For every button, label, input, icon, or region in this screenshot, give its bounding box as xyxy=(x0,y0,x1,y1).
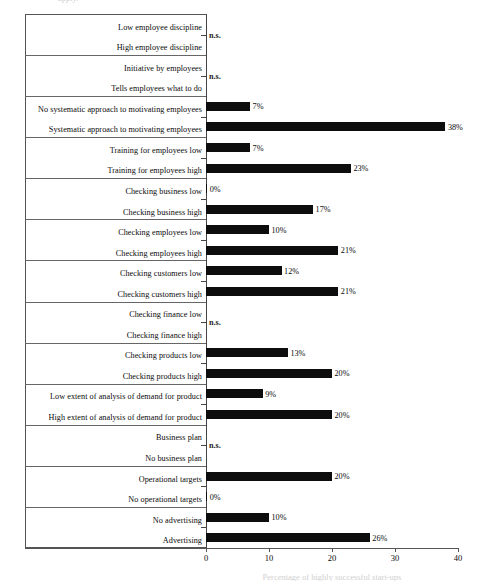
x-axis-tick xyxy=(269,548,270,552)
group-separator xyxy=(25,302,206,303)
bar-value-label: 21% xyxy=(341,287,356,296)
bar xyxy=(206,246,338,255)
bar-value-label: 17% xyxy=(316,205,331,214)
not-significant-label: n.s. xyxy=(209,71,221,80)
x-axis-tick-label: 10 xyxy=(265,553,274,563)
category-label: Checking customers low xyxy=(120,269,202,278)
category-label: High extent of analysis of demand for pr… xyxy=(49,412,202,421)
bar xyxy=(206,513,269,522)
group-separator xyxy=(25,96,206,97)
group-separator xyxy=(25,137,206,138)
bar xyxy=(206,184,207,193)
bar-value-label: 7% xyxy=(253,143,264,152)
x-axis-tick xyxy=(206,548,207,552)
group-separator xyxy=(25,219,206,220)
category-label: Tells employees what to do xyxy=(111,84,202,93)
category-label: No systematic approach to motivating emp… xyxy=(38,104,202,113)
category-label: Training for employees low xyxy=(110,145,202,154)
bar-value-label: 20% xyxy=(335,410,350,419)
cut-off-text-artifact: apply. xyxy=(58,0,78,3)
group-axis-tick xyxy=(201,363,206,364)
group-axis-tick xyxy=(201,240,206,241)
category-label: Systematic approach to motivating employ… xyxy=(49,125,202,134)
category-label: Checking employees high xyxy=(116,248,202,257)
category-label: No operational targets xyxy=(128,495,202,504)
group-separator xyxy=(25,466,206,467)
not-significant-label: n.s. xyxy=(209,318,221,327)
bar xyxy=(206,533,370,542)
not-significant-label: n.s. xyxy=(209,30,221,39)
group-axis-tick xyxy=(201,117,206,118)
bar xyxy=(206,205,313,214)
bar xyxy=(206,122,445,131)
bar-value-label: 20% xyxy=(335,369,350,378)
category-label: No advertising xyxy=(153,515,202,524)
category-label: Business plan xyxy=(156,433,202,442)
category-label: Checking finance low xyxy=(129,310,202,319)
group-axis-tick xyxy=(201,486,206,487)
bar-value-label: 26% xyxy=(372,533,387,542)
group-separator xyxy=(25,507,206,508)
category-label: Checking employees low xyxy=(118,228,202,237)
x-axis-title: Percentage of highly successful start-up… xyxy=(263,572,402,581)
x-axis-tick-label: 20 xyxy=(328,553,337,563)
x-axis-tick-label: 40 xyxy=(454,553,463,563)
category-label: Checking products high xyxy=(123,371,202,380)
group-separator xyxy=(25,425,206,426)
bar xyxy=(206,472,332,481)
group-axis-tick xyxy=(201,76,206,77)
group-axis-tick xyxy=(201,527,206,528)
group-separator xyxy=(25,343,206,344)
bar xyxy=(206,389,263,398)
category-label: Checking business high xyxy=(123,207,202,216)
bar-value-label: 9% xyxy=(265,389,276,398)
category-label: Low employee discipline xyxy=(118,22,202,31)
group-axis-tick xyxy=(201,322,206,323)
category-label: Initiative by employees xyxy=(124,63,202,72)
category-label: No business plan xyxy=(145,454,202,463)
group-separator xyxy=(25,55,206,56)
category-label: Advertising xyxy=(163,536,202,545)
group-separator xyxy=(25,178,206,179)
group-axis-tick xyxy=(201,35,206,36)
bar-value-label: 23% xyxy=(353,164,368,173)
category-label: Training for employees high xyxy=(107,166,202,175)
group-axis-tick xyxy=(201,199,206,200)
chart-figure: apply. Low employee disciplineHigh emplo… xyxy=(0,0,478,583)
bar-value-label: 21% xyxy=(341,246,356,255)
bar xyxy=(206,143,250,152)
bar-value-label: 10% xyxy=(272,513,287,522)
category-label: Checking products low xyxy=(125,351,202,360)
group-separator xyxy=(25,384,206,385)
group-axis-tick xyxy=(201,281,206,282)
category-label: Checking business low xyxy=(125,187,202,196)
bar xyxy=(206,369,332,378)
category-label: Low extent of analysis of demand for pro… xyxy=(50,392,202,401)
category-label: Operational targets xyxy=(139,474,202,483)
category-label: Checking customers high xyxy=(118,289,202,298)
category-label: High employee discipline xyxy=(117,43,202,52)
bar-value-label: 0% xyxy=(210,492,221,501)
group-axis-tick xyxy=(201,404,206,405)
bar xyxy=(206,287,338,296)
bar-value-label: 13% xyxy=(290,348,305,357)
bar xyxy=(206,348,288,357)
x-axis-tick xyxy=(395,548,396,552)
bar-value-label: 12% xyxy=(284,266,299,275)
bar-row: Advertising xyxy=(25,527,206,552)
bar xyxy=(206,492,207,501)
value-axis-line xyxy=(206,14,207,548)
bar xyxy=(206,225,269,234)
not-significant-label: n.s. xyxy=(209,441,221,450)
bar xyxy=(206,410,332,419)
x-axis-tick-label: 30 xyxy=(391,553,400,563)
bar xyxy=(206,164,351,173)
bar xyxy=(206,266,282,275)
bar-value-label: 7% xyxy=(253,102,264,111)
bar-value-label: 20% xyxy=(335,472,350,481)
group-axis-tick xyxy=(201,445,206,446)
x-axis-tick-label: 0 xyxy=(204,553,208,563)
group-separator xyxy=(25,260,206,261)
bar-value-label: 0% xyxy=(210,184,221,193)
bar-value-label: 38% xyxy=(448,122,463,131)
